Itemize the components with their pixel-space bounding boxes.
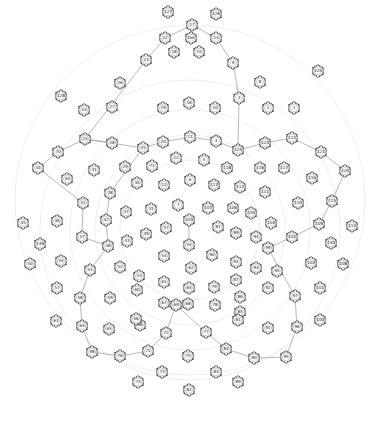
hex-node[interactable]: 46 [50, 214, 64, 228]
hex-node[interactable]: 26 [113, 76, 127, 90]
hex-node[interactable]: 48 [101, 239, 115, 253]
hex-node[interactable]: 111 [258, 185, 272, 199]
hex-node[interactable]: 17 [185, 18, 199, 32]
hex-node[interactable]: 90 [205, 248, 219, 262]
hex-node[interactable]: 8 [253, 75, 267, 89]
hex-node[interactable]: 43 [120, 234, 134, 248]
hex-node[interactable]: 110 [291, 196, 305, 210]
hex-node[interactable]: 25 [136, 141, 150, 155]
hex-node[interactable]: Del [184, 31, 198, 45]
hex-node[interactable]: 57 [50, 281, 64, 295]
hex-node[interactable]: 39 [139, 227, 153, 241]
hex-node[interactable]: 27 [105, 100, 119, 114]
hex-node[interactable]: 78 [208, 298, 222, 312]
hex-node[interactable]: 123 [258, 136, 272, 150]
hex-node[interactable]: 11 [183, 130, 197, 144]
hex-node[interactable]: 9 [226, 56, 240, 70]
hex-node[interactable]: 20 [156, 135, 170, 149]
hex-node[interactable]: 101 [313, 281, 327, 295]
hex-node[interactable]: 81 [211, 220, 225, 234]
hex-node[interactable]: 87 [229, 273, 243, 287]
hex-node[interactable]: 47 [75, 230, 89, 244]
hex-node[interactable]: 13 [157, 178, 171, 192]
hex-node[interactable]: 30 [130, 176, 144, 190]
hex-node[interactable]: 124 [231, 143, 245, 157]
hex-node[interactable]: 95 [279, 350, 293, 364]
hex-node[interactable]: 28 [105, 136, 119, 150]
hex-node[interactable]: 113 [207, 178, 221, 192]
hex-node[interactable]: 114 [345, 219, 359, 233]
hex-node[interactable]: 116 [253, 161, 267, 175]
hex-node[interactable]: 107 [201, 201, 215, 215]
hex-node[interactable]: 99 [261, 241, 275, 255]
hex-node[interactable]: 89 [229, 226, 243, 240]
hex-node[interactable]: 55 [54, 254, 68, 268]
hex-node[interactable]: 4 [209, 134, 223, 148]
hex-node[interactable]: 31 [144, 202, 158, 216]
hex-node[interactable]: 120 [338, 164, 352, 178]
hex-node[interactable]: 41 [76, 196, 90, 210]
hex-node[interactable]: 29 [118, 160, 132, 174]
hex-node[interactable]: 92 [261, 281, 275, 295]
hex-node[interactable]: 104 [264, 216, 278, 230]
hex-node[interactable]: 60 [130, 283, 144, 297]
hex-node[interactable]: 53 [77, 103, 91, 117]
hex-node[interactable]: 42 [99, 213, 113, 227]
hex-node[interactable]: 127 [161, 5, 175, 19]
hex-node[interactable]: 71 [141, 344, 155, 358]
hex-node[interactable]: 51 [83, 263, 97, 277]
hex-node[interactable]: 74 [131, 375, 145, 389]
hex-node[interactable]: 95 [270, 264, 284, 278]
hex-node[interactable]: 45 [16, 216, 30, 230]
hex-node[interactable]: 83 [209, 365, 223, 379]
hex-node[interactable]: 22 [158, 31, 172, 45]
hex-node[interactable]: 71 [145, 159, 159, 173]
hex-node[interactable]: 38 [103, 186, 117, 200]
hex-node[interactable]: 65 [182, 281, 196, 295]
hex-node[interactable]: 128 [54, 89, 68, 103]
hex-node[interactable]: 97 [288, 289, 302, 303]
hex-node[interactable]: 16 [182, 96, 196, 110]
hex-node[interactable]: 89 [231, 375, 245, 389]
hex-node[interactable]: 98 [85, 345, 99, 359]
hex-node[interactable]: 108 [336, 257, 350, 271]
hex-node[interactable]: 10 [208, 101, 222, 115]
hex-node[interactable]: 56 [129, 312, 143, 326]
hex-node[interactable]: 24 [78, 132, 92, 146]
hex-node[interactable]: 40 [60, 172, 74, 186]
hex-node[interactable]: 126 [209, 7, 223, 21]
hex-node[interactable]: 86 [233, 290, 247, 304]
hex-node[interactable]: 76 [113, 349, 127, 363]
hex-node[interactable]: 90 [247, 351, 261, 365]
hex-node[interactable]: 140 [324, 236, 338, 250]
hex-node[interactable]: 69 [169, 298, 183, 312]
hex-node[interactable]: 100 [313, 313, 327, 327]
hex-node[interactable]: 77 [199, 325, 213, 339]
hex-node[interactable]: 5 [197, 153, 211, 167]
hex-node[interactable]: 125 [311, 64, 325, 78]
hex-node[interactable]: 50 [23, 257, 37, 271]
hex-node[interactable]: 37 [119, 205, 133, 219]
hex-node[interactable]: 6 [183, 173, 197, 187]
hex-node[interactable]: 31 [87, 163, 101, 177]
hex-node[interactable]: 63 [49, 314, 63, 328]
hex-node[interactable]: 12 [169, 151, 183, 165]
hex-node[interactable]: 65 [102, 322, 116, 336]
hex-node[interactable]: 93 [249, 261, 263, 275]
hex-node[interactable]: 62 [184, 261, 198, 275]
hex-node[interactable]: 7 [171, 198, 185, 212]
hex-node[interactable]: 68 [181, 297, 195, 311]
hex-node[interactable]: 106 [226, 201, 240, 215]
hex-node[interactable]: 121 [314, 145, 328, 159]
hex-node[interactable]: 54 [157, 249, 171, 263]
hex-node[interactable]: 52 [113, 260, 127, 274]
hex-node[interactable]: 103 [304, 256, 318, 270]
hex-node[interactable]: 81 [231, 313, 245, 327]
hex-node[interactable]: 15 [192, 45, 206, 59]
hex-node[interactable]: 14 [209, 31, 223, 45]
hex-node[interactable]: 82 [182, 383, 196, 397]
hex-node[interactable]: 57 [159, 221, 173, 235]
hex-node[interactable]: 18 [167, 45, 181, 59]
hex-node[interactable]: 73 [155, 365, 169, 379]
hex-node[interactable]: 59 [103, 291, 117, 305]
